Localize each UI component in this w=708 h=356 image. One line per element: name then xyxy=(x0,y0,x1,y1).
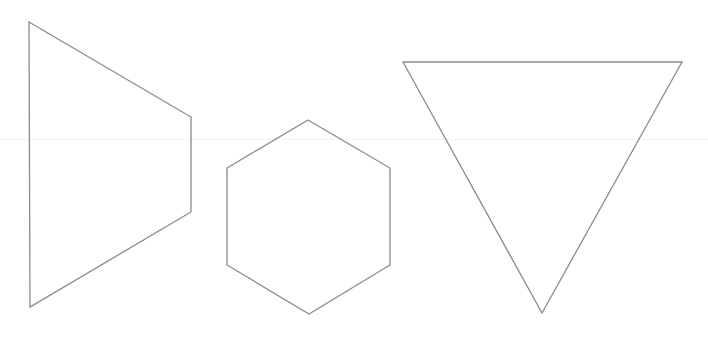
shapes-diagram xyxy=(0,0,708,356)
hexagon-shape xyxy=(227,120,390,314)
inverted-triangle-shape xyxy=(403,62,682,313)
trapezoid-shape xyxy=(29,22,191,307)
